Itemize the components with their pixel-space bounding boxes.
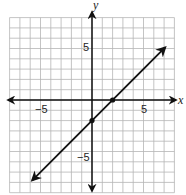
coordinate-plane: y x −5 5 5 −5	[0, 0, 186, 195]
plotted-point	[110, 97, 115, 102]
plotted-point	[89, 118, 94, 123]
x-tick-5: 5	[141, 103, 147, 115]
y-tick-5: 5	[83, 41, 89, 53]
axes	[8, 12, 176, 191]
y-axis-label: y	[92, 0, 99, 12]
x-axis-label: x	[177, 93, 184, 107]
x-tick-neg5: −5	[35, 103, 48, 115]
y-tick-neg5: −5	[77, 151, 90, 163]
